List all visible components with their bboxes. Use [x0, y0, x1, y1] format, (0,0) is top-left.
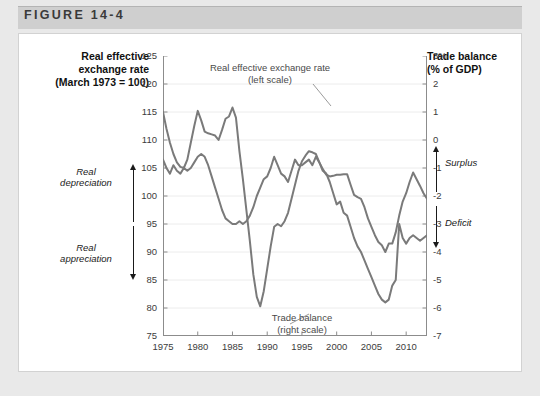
y-axis-right-tick-label: -4: [433, 246, 463, 257]
right-axis-title-line2: (% of GDP): [427, 63, 537, 76]
chart-svg: [163, 56, 427, 336]
y-axis-right-tick-label: -7: [433, 330, 463, 341]
real-appreciation-label: Real appreciation: [43, 242, 129, 264]
real-appreciation-line2: appreciation: [43, 253, 129, 264]
chart-panel: Real effective exchange rate (March 1973…: [18, 33, 522, 372]
y-axis-left-tick-label: 85: [127, 274, 157, 285]
y-axis-right-tick-label: -3: [433, 218, 463, 229]
trade-balance-callout-line2: (right scale): [247, 324, 357, 336]
y-axis-left-tick-label: 120: [127, 78, 157, 89]
y-axis-left-tick-label: 80: [127, 302, 157, 313]
exchange-rate-series-callout: Real effective exchange rate (left scale…: [195, 62, 345, 86]
y-axis-left-tick-label: 110: [127, 134, 157, 145]
trade-balance-series-callout: Trade balance (right scale): [247, 312, 357, 336]
y-axis-right-tick-label: -1: [433, 162, 463, 173]
exchange-rate-callout-line1: Real effective exchange rate: [195, 62, 345, 74]
y-axis-right-tick-label: 1: [433, 106, 463, 117]
figure-number-label: FIGURE 14-4: [24, 8, 125, 22]
y-axis-right-tick-label: 3%: [433, 50, 463, 61]
y-axis-right-tick-label: 0: [433, 134, 463, 145]
plot-area: [163, 56, 427, 336]
figure-container: FIGURE 14-4 Real effective exchange rate…: [0, 0, 540, 396]
y-axis-right-tick-label: -5: [433, 274, 463, 285]
real-depreciation-label: Real depreciation: [47, 166, 125, 188]
real-depreciation-line2: depreciation: [47, 177, 125, 188]
trade-balance-callout-line1: Trade balance: [247, 312, 357, 324]
x-axis-tick-label: 2010: [386, 341, 426, 352]
y-axis-left-tick-label: 90: [127, 246, 157, 257]
y-axis-left-tick-label: 75: [127, 330, 157, 341]
real-appreciation-line1: Real: [43, 242, 129, 253]
y-axis-right-tick-label: -2: [433, 190, 463, 201]
y-axis-left-tick-label: 105: [127, 162, 157, 173]
left-axis-title-line2: exchange rate: [29, 63, 149, 76]
y-axis-left-tick-label: 100: [127, 190, 157, 201]
y-axis-left-tick-label: 115: [127, 106, 157, 117]
y-axis-right-tick-label: -6: [433, 302, 463, 313]
real-depreciation-line1: Real: [47, 166, 125, 177]
exchange-rate-callout-line2: (left scale): [195, 74, 345, 86]
y-axis-left-tick-label: 95: [127, 218, 157, 229]
y-axis-right-tick-label: 2: [433, 78, 463, 89]
y-axis-left-tick-label: 125: [127, 50, 157, 61]
